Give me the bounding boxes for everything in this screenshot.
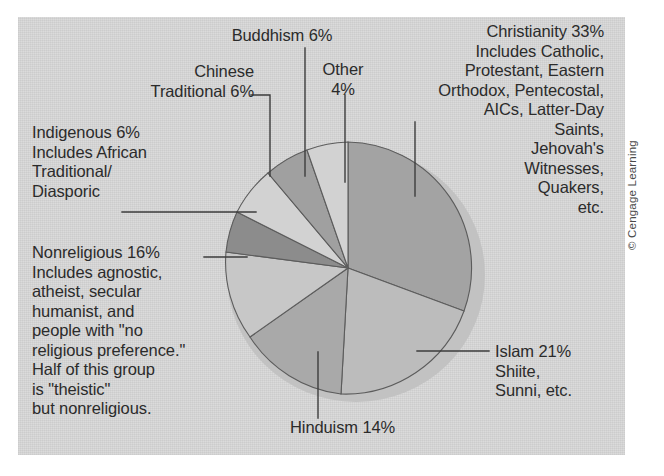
label-indigenous: Indigenous 6% Includes African Tradition… [32,123,212,201]
figure-root: Buddhism 6% Other 4% Christianity 33% In… [0,0,664,476]
label-hinduism: Hinduism 14% [290,418,450,438]
label-buddhism: Buddhism 6% [214,26,350,46]
label-islam: Islam 21% Shiite, Sunni, etc. [495,342,617,401]
copyright-credit: © Cengage Learning [626,140,638,250]
label-christianity: Christianity 33% Includes Catholic, Prot… [372,22,604,217]
label-nonreligious: Nonreligious 16% Includes agnostic, athe… [32,243,230,419]
leader-line-chinese-traditional [251,95,270,176]
label-chinese-traditional: Chinese Traditional 6% [112,62,254,101]
label-other: Other 4% [308,60,378,99]
